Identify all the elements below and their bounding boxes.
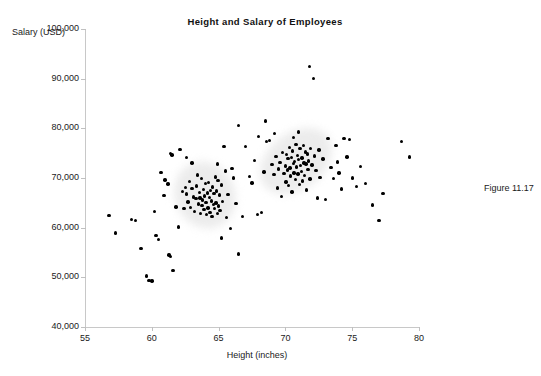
scatter-point (329, 166, 332, 169)
scatter-point (220, 236, 223, 239)
scatter-point (296, 172, 299, 175)
scatter-point (174, 205, 177, 208)
scatter-point (157, 238, 160, 241)
scatter-point (273, 132, 276, 135)
scatter-point (324, 198, 327, 201)
scatter-plot-area (85, 29, 419, 327)
scatter-point (130, 218, 133, 221)
x-tick-label: 80 (399, 333, 439, 343)
scatter-point (166, 182, 169, 185)
scatter-point (340, 187, 343, 190)
scatter-point (178, 148, 181, 151)
scatter-point (171, 269, 174, 272)
scatter-point (226, 193, 229, 196)
scatter-point (216, 179, 219, 182)
x-axis-line (85, 327, 420, 328)
x-axis-label: Height (inches) (187, 350, 327, 360)
x-tick-label: 70 (265, 333, 305, 343)
scatter-point (276, 186, 279, 189)
scatter-point (278, 161, 281, 164)
scatter-point (337, 171, 340, 174)
scatter-point (284, 164, 287, 167)
scatter-point (177, 225, 180, 228)
scatter-point (216, 162, 219, 165)
scatter-point (194, 197, 197, 200)
scatter-point (182, 207, 185, 210)
scatter-point (302, 144, 305, 147)
scatter-point (145, 274, 148, 277)
scatter-point (232, 176, 235, 179)
scatter-point (234, 202, 237, 205)
x-tick-label: 65 (199, 333, 239, 343)
scatter-point (306, 168, 309, 171)
scatter-point (408, 155, 411, 158)
x-tick-mark (219, 327, 220, 331)
scatter-point (244, 145, 247, 148)
scatter-point (217, 204, 220, 207)
scatter-point (280, 195, 283, 198)
scatter-point (262, 170, 265, 173)
scatter-point (200, 204, 203, 207)
scatter-point (198, 191, 201, 194)
y-tick-label-wrap: 80,000 (24, 122, 79, 133)
y-tick-label-wrap: 70,000 (24, 172, 79, 183)
scatter-point (196, 173, 199, 176)
scatter-point (134, 219, 137, 222)
scatter-point (260, 211, 263, 214)
figure-root: Height and Salary of Employees Salary (U… (0, 0, 541, 376)
scatter-point (159, 171, 162, 174)
y-tick-label-wrap: 90,000 (24, 73, 79, 84)
y-tick-label: 90,000 (29, 73, 79, 83)
y-tick-label: 100,000 (29, 23, 79, 33)
scatter-point (264, 119, 267, 122)
scatter-point (364, 182, 367, 185)
x-tick-mark (85, 327, 86, 331)
cluster-halo (247, 114, 345, 207)
scatter-point (107, 214, 110, 217)
scatter-point (282, 172, 285, 175)
scatter-point (318, 176, 321, 179)
scatter-point (202, 188, 205, 191)
scatter-point (310, 163, 313, 166)
scatter-point (218, 193, 221, 196)
scatter-point (206, 206, 209, 209)
scatter-point (332, 177, 335, 180)
scatter-point (359, 165, 362, 168)
scatter-point (377, 219, 380, 222)
scatter-point (334, 144, 337, 147)
scatter-point (400, 140, 403, 143)
scatter-point (316, 196, 319, 199)
x-tick-mark (352, 327, 353, 331)
scatter-point (345, 155, 348, 158)
scatter-point (211, 185, 214, 188)
scatter-point (314, 169, 317, 172)
scatter-point (185, 192, 188, 195)
scatter-point (190, 161, 193, 164)
scatter-point (210, 215, 213, 218)
y-tick-label-wrap: 60,000 (24, 222, 79, 233)
scatter-point (163, 178, 166, 181)
scatter-point (230, 167, 233, 170)
scatter-point (351, 176, 354, 179)
scatter-point (342, 137, 345, 140)
scatter-point (250, 181, 253, 184)
scatter-point (114, 231, 117, 234)
scatter-point (206, 191, 209, 194)
scatter-point (229, 227, 232, 230)
scatter-point (304, 162, 307, 165)
scatter-point (272, 173, 275, 176)
scatter-point (288, 166, 291, 169)
scatter-point (317, 148, 320, 151)
scatter-point (186, 200, 189, 203)
scatter-point (336, 160, 339, 163)
x-tick-mark (285, 327, 286, 331)
scatter-point (292, 136, 295, 139)
scatter-point (270, 163, 273, 166)
scatter-point (253, 159, 256, 162)
x-tick-label: 55 (65, 333, 105, 343)
scatter-point (290, 190, 293, 193)
scatter-point (355, 185, 358, 188)
scatter-point (348, 138, 351, 141)
y-tick-label-wrap: 100,000 (24, 23, 79, 34)
scatter-point (153, 210, 156, 213)
